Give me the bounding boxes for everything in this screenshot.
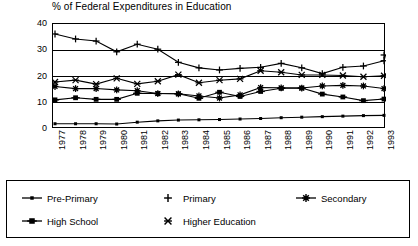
data-point-square [215,90,223,95]
data-point-x-star [216,77,223,83]
gridline [53,50,384,51]
data-point-x-star [196,80,203,86]
data-point-asterisk [302,194,310,202]
data-point-square [112,97,120,102]
data-point-square [277,86,285,91]
legend-item-pre-primary[interactable]: Pre-Primary [21,191,98,205]
x-tick-label: 1990 [325,130,334,150]
data-point-asterisk [339,82,346,89]
data-point-small-square [74,122,77,125]
data-point-plus [278,60,285,67]
data-point-small-square [156,119,159,122]
data-point-asterisk [360,83,367,90]
legend-item-secondary[interactable]: Secondary [295,191,366,205]
data-point-small-square [218,118,221,121]
data-point-plus [134,41,141,48]
x-tick-label: 1981 [140,130,149,150]
data-point-small-square [54,122,57,125]
data-point-small-square [239,118,242,121]
x-tick-label: 1982 [161,130,170,150]
data-point-small-square [300,116,303,119]
data-point-plus [360,63,367,70]
x-tick-label: 1977 [58,130,67,150]
data-point-plus [175,59,182,66]
series-primary [53,31,386,77]
plot-area [52,23,385,128]
legend-label: Pre-Primary [47,193,98,204]
data-point-plus [298,64,305,71]
gridline [53,102,384,103]
data-point-square [298,86,306,91]
x-tick-label: 1993 [387,130,396,150]
data-point-plus [164,194,172,202]
legend-label: Secondary [321,193,366,204]
legend-item-higher-education[interactable]: Higher Education [157,214,256,228]
data-point-x-star [278,69,285,75]
square-icon [21,214,43,228]
x-star-icon [157,214,179,228]
small-square-icon [21,191,43,205]
data-point-plus [216,67,223,74]
data-point-x-star [53,79,58,85]
y-axis-labels: 010203040 [28,23,50,128]
data-point-square [318,92,326,97]
x-tick-label: 1988 [284,130,293,150]
x-tick-label: 1985 [223,130,232,150]
x-tick-label: 1987 [264,130,273,150]
x-tick-label: 1989 [305,130,314,150]
chart-legend: Pre-PrimaryPrimarySecondaryHigh SchoolHi… [6,180,410,238]
data-point-small-square [177,119,180,122]
y-tick-label: 20 [37,71,47,80]
legend-item-high-school[interactable]: High School [21,214,98,228]
data-point-square [380,97,386,102]
x-tick-label: 1980 [120,130,129,150]
data-point-square [154,91,162,96]
legend-label: Higher Education [183,216,256,227]
data-point-x-star [134,81,141,87]
series-primary-tail [381,52,386,61]
data-point-square [71,95,79,100]
x-tick-label: 1992 [366,130,375,150]
x-axis-labels: 1977197819791980198119821983198419851986… [52,130,385,170]
data-point-small-square [30,196,33,199]
data-point-small-square [362,114,365,117]
data-point-plus [196,64,203,71]
legend-label: High School [47,216,98,227]
legend-label: Primary [183,193,216,204]
data-point-small-square [95,122,98,125]
data-point-plus [339,64,346,71]
data-point-plus [257,64,264,71]
data-point-square [27,218,37,224]
x-tick-label: 1991 [346,130,355,150]
data-point-plus [53,31,58,38]
data-point-square [92,97,100,102]
legend-item-primary[interactable]: Primary [157,191,216,205]
asterisk-icon [295,191,317,205]
data-point-asterisk [72,85,79,92]
x-tick-label: 1984 [202,130,211,150]
x-tick-label: 1979 [99,130,108,150]
series-pre-primary [54,114,386,126]
data-point-small-square [136,121,139,124]
data-point-small-square [280,116,283,119]
plus-icon [157,191,179,205]
chart-title: % of Federal Expenditures in Education [52,1,231,12]
data-point-plus [93,38,100,45]
data-point-x-star [154,78,161,84]
data-point-square [339,95,347,100]
y-tick-label: 30 [37,45,47,54]
gridline [53,76,384,77]
data-point-plus [381,57,386,64]
data-point-asterisk [113,86,120,93]
y-tick-label: 10 [37,97,47,106]
data-point-small-square [259,117,262,120]
data-point-plus [237,65,244,72]
data-point-plus [72,36,79,43]
data-point-small-square [115,123,118,126]
data-point-x-star [164,218,172,225]
data-point-square [174,91,182,96]
data-point-asterisk [216,95,223,102]
data-point-small-square [197,118,200,121]
data-point-square [256,89,264,94]
x-tick-label: 1986 [243,130,252,150]
